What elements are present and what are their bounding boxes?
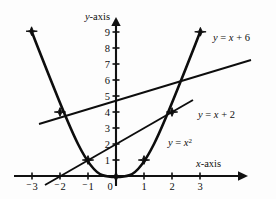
- graph-figure: 1 2 3 4 5 6 7 8 9 ⁻3 ⁻2 ⁻1 0 1 2 3 y-axi…: [0, 0, 276, 199]
- label-line-y-equals-x-plus-2: y = x + 2: [197, 109, 235, 120]
- point-marker: [26, 27, 37, 36]
- y-tick-label-5: 5: [105, 91, 110, 102]
- y-tick-labels: 1 2 3 4 5 6 7 8 9: [105, 27, 111, 166]
- y-tick-label-9: 9: [105, 27, 110, 38]
- x-tick-label-neg3: ⁻3: [26, 181, 37, 192]
- point-marker: [110, 172, 122, 181]
- y-tick-label-7: 7: [105, 59, 110, 70]
- y-tick-label-4: 4: [105, 107, 111, 118]
- x-tick-label-neg1: ⁻1: [82, 181, 93, 192]
- x-tick-label-zero: 0: [107, 181, 112, 192]
- coordinate-plot: 1 2 3 4 5 6 7 8 9 ⁻3 ⁻2 ⁻1 0 1 2 3 y-axi…: [0, 0, 276, 199]
- x-tick-label-3: 3: [197, 181, 202, 192]
- y-axis-arrowhead: [111, 17, 120, 26]
- label-curve-y-equals-x-squared: y = x2: [167, 137, 193, 149]
- y-tick-label-6: 6: [105, 75, 110, 86]
- x-tick-labels: ⁻3 ⁻2 ⁻1 0 1 2 3: [26, 181, 202, 192]
- y-tick-label-1: 1: [105, 155, 110, 166]
- label-line-y-equals-x-plus-6: y = x + 6: [212, 32, 250, 43]
- point-marker: [195, 27, 206, 36]
- y-tick-label-2: 2: [105, 139, 110, 150]
- x-tick-label-1: 1: [141, 181, 146, 192]
- y-axis-label: y-axis: [84, 11, 110, 22]
- y-tick-label-8: 8: [105, 43, 110, 54]
- y-tick-label-3: 3: [105, 123, 110, 134]
- x-axis-arrowhead: [238, 171, 248, 180]
- x-axis-label: x-axis: [195, 158, 221, 169]
- x-tick-label-neg2: ⁻2: [54, 181, 65, 192]
- x-tick-label-2: 2: [169, 181, 174, 192]
